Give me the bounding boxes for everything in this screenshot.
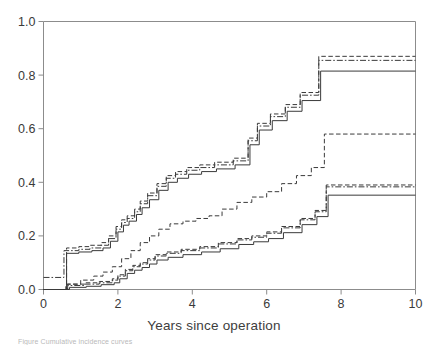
plot-frame [44,22,416,290]
x-axis-title: Years since operation [0,318,428,333]
x-tick-label: 0 [40,297,47,311]
series-middle-dashed [44,134,416,289]
series-upper-solid [44,71,416,289]
series-layer [44,56,416,289]
y-tick-label: 0.4 [18,176,35,190]
series-lower-dashdot [44,187,416,290]
x-tick-label: 6 [263,297,270,311]
x-tick-label: 8 [338,297,345,311]
tick-label-layer: 0.00.20.40.60.81.00246810 [18,15,422,311]
x-tick-label: 10 [409,297,423,311]
series-lower-dashed [44,185,416,290]
y-tick-label: 0.2 [18,229,35,243]
x-tick-label: 2 [114,297,121,311]
y-tick-label: 0.6 [18,122,35,136]
y-tick-label: 1.0 [18,15,35,29]
cumulative-incidence-chart: 0.00.20.40.60.81.00246810 [0,0,428,349]
figure-caption: Figure Cumulative incidence curves [18,338,418,345]
y-tick-label: 0.8 [18,69,35,83]
x-tick-label: 4 [189,297,196,311]
series-upper-dashed [44,56,416,289]
axes-layer [39,22,416,295]
y-tick-label: 0.0 [18,283,35,297]
figure-container: 0.00.20.40.60.81.00246810 Years since op… [0,0,428,349]
